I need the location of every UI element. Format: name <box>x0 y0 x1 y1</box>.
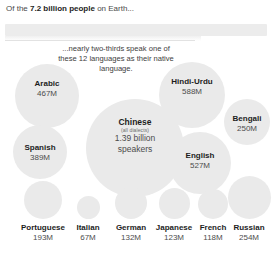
bubble-name-bengali: Bengali <box>187 114 272 124</box>
bubble-name-spanish: Spanish <box>0 143 100 153</box>
bubble-value-arabic: 467M <box>0 89 107 99</box>
bubble-label-english: English527M <box>140 151 260 171</box>
bubble-label-hindi-urdu: Hindi-Urdu588M <box>132 77 252 97</box>
bubble-value-spanish: 389M <box>0 153 100 163</box>
bubble-label-arabic: Arabic467M <box>0 79 107 99</box>
headline-prefix: Of the <box>6 4 30 13</box>
bubble-german[interactable] <box>115 187 147 219</box>
bubble-italian[interactable] <box>77 196 100 219</box>
bubble-french[interactable] <box>198 189 228 219</box>
bubble-value-russian: 254M <box>209 233 272 243</box>
bubble-value-hindi-urdu: 588M <box>132 87 252 97</box>
callout-text: ...nearly two-thirds speak one of these … <box>52 44 180 75</box>
headline-suffix: on Earth... <box>95 4 134 13</box>
bubble-name-arabic: Arabic <box>0 79 107 89</box>
bubble-russian[interactable] <box>228 176 271 219</box>
page-headline: Of the 7.2 billion people on Earth... <box>6 3 134 14</box>
bubble-label-spanish: Spanish389M <box>0 143 100 163</box>
bubble-name-hindi-urdu: Hindi-Urdu <box>132 77 252 87</box>
bubble-value-english: 527M <box>140 161 260 171</box>
world-population-band <box>5 24 267 36</box>
bubble-name-english: English <box>140 151 260 161</box>
bubble-label-russian: Russian254M <box>209 223 272 243</box>
bubble-label-bengali: Bengali250M <box>187 114 272 134</box>
world-population-band-rule <box>5 40 195 41</box>
bubble-portuguese[interactable] <box>24 181 62 219</box>
bubble-japanese[interactable] <box>159 188 190 219</box>
headline-emphasis: 7.2 billion people <box>30 4 95 13</box>
bubble-name-russian: Russian <box>209 223 272 233</box>
